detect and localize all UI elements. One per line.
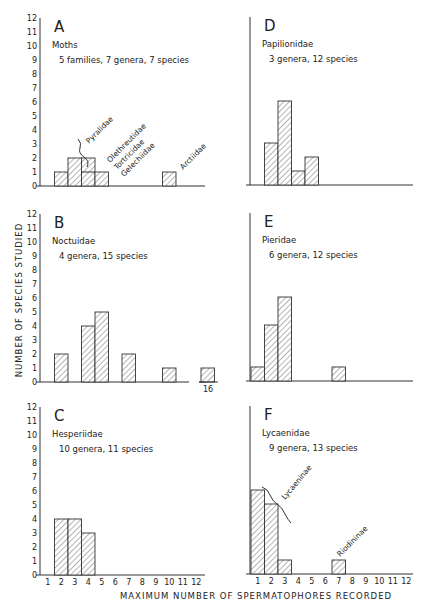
panel-subtitle: 9 genera, 13 species: [269, 443, 358, 453]
panel-family: Moths: [52, 40, 78, 50]
bar-x4: [82, 326, 96, 382]
bar-x5: [305, 157, 319, 185]
panel-b: 0123456789101112BNoctuidae4 genera, 15 s…: [27, 210, 218, 394]
bar-x16: [201, 368, 215, 382]
panel-subtitle: 6 genera, 12 species: [269, 250, 358, 260]
panel-letter: F: [264, 406, 273, 424]
y-tick-label: 6: [32, 98, 37, 107]
x-tick-label: 1: [255, 577, 260, 586]
y-tick-label: 1: [32, 168, 37, 177]
y-tick-label: 12: [27, 403, 37, 412]
y-tick-label: 0: [32, 571, 37, 580]
y-tick-label: 8: [32, 266, 37, 275]
x-tick-label: 10: [374, 577, 384, 586]
x-tick-label: 12: [191, 578, 201, 587]
bar-x7: [122, 354, 136, 382]
y-tick-label: 3: [32, 140, 37, 149]
x-tick-label: 8: [140, 578, 145, 587]
y-tick-label: 10: [27, 431, 37, 440]
bar-x3: [278, 297, 292, 381]
bar-x2: [55, 519, 69, 575]
label-pyralidae: Pyralidae: [84, 114, 115, 145]
bar-x2: [265, 325, 279, 381]
bar-x3: [68, 519, 82, 575]
bar-x10: [163, 172, 177, 186]
y-tick-label: 0: [32, 378, 37, 387]
panel-subtitle: 5 families, 7 genera, 7 species: [59, 55, 190, 65]
bar-x10: [163, 368, 177, 382]
panel-family: Papilionidae: [262, 39, 313, 49]
bar-x2: [265, 143, 279, 185]
y-tick-label: 10: [27, 238, 37, 247]
x-tick-label: 4: [86, 578, 91, 587]
y-tick-label: 7: [32, 84, 37, 93]
bar-x7: [332, 367, 346, 381]
panel-subtitle: 3 genera, 12 species: [269, 54, 358, 64]
label-lycaeninae: Lycaeninae: [280, 463, 314, 501]
y-tick-label: 9: [32, 56, 37, 65]
x-axis-title: MAXIMUM NUMBER OF SPERMATOPHORES RECORDE…: [120, 591, 392, 601]
break-label: 16: [203, 385, 213, 394]
x-tick-label: 11: [178, 578, 188, 587]
y-tick-label: 9: [32, 445, 37, 454]
y-axis-title: NUMBER OF SPECIES STUDIED: [14, 223, 24, 378]
bar-x2: [55, 172, 69, 186]
panel-letter: E: [264, 213, 273, 231]
bar-x7: [332, 560, 346, 574]
y-tick-label: 3: [32, 529, 37, 538]
y-tick-label: 7: [32, 280, 37, 289]
panel-family: Hesperiidae: [52, 429, 103, 439]
panel-letter: D: [264, 17, 276, 35]
y-tick-label: 2: [32, 543, 37, 552]
bar-x4: [292, 171, 306, 185]
bar-x1: [251, 367, 265, 381]
bar-x2: [55, 354, 69, 382]
bar-x5: [95, 312, 109, 382]
y-tick-label: 4: [32, 515, 37, 524]
x-tick-label: 3: [282, 577, 287, 586]
x-tick-label: 4: [296, 577, 301, 586]
y-tick-label: 11: [27, 28, 37, 37]
x-tick-label: 6: [113, 578, 118, 587]
x-tick-label: 5: [99, 578, 104, 587]
panel-c: 0123456789101112123456789101112CHesperii…: [27, 403, 205, 587]
bar-x1: [251, 490, 265, 574]
y-tick-label: 11: [27, 417, 37, 426]
panel-e: EPieridae6 genera, 12 species: [246, 213, 413, 381]
x-tick-label: 7: [336, 577, 341, 586]
x-tick-label: 9: [363, 577, 368, 586]
x-tick-label: 3: [72, 578, 77, 587]
bar-x3: [68, 158, 82, 186]
x-tick-label: 10: [164, 578, 174, 587]
x-tick-label: 5: [309, 577, 314, 586]
panel-d: DPapilionidae3 genera, 12 species: [246, 17, 413, 185]
y-tick-label: 10: [27, 42, 37, 51]
y-tick-label: 7: [32, 473, 37, 482]
panel-a: 0123456789101112AMoths5 families, 7 gene…: [27, 14, 208, 191]
y-tick-label: 1: [32, 557, 37, 566]
x-tick-label: 2: [59, 578, 64, 587]
bar-x3: [278, 560, 292, 574]
panel-subtitle: 4 genera, 15 species: [59, 251, 148, 261]
bar-x3: [278, 101, 292, 185]
y-tick-label: 9: [32, 252, 37, 261]
y-tick-label: 6: [32, 294, 37, 303]
bar-x4: [82, 533, 96, 575]
y-tick-label: 12: [27, 210, 37, 219]
y-tick-label: 12: [27, 14, 37, 23]
y-tick-label: 2: [32, 350, 37, 359]
y-tick-label: 1: [32, 364, 37, 373]
x-tick-label: 6: [323, 577, 328, 586]
x-tick-label: 8: [350, 577, 355, 586]
panel-family: Pieridae: [262, 235, 296, 245]
figure: NUMBER OF SPECIES STUDIED MAXIMUM NUMBER…: [0, 0, 434, 610]
x-tick-label: 2: [269, 577, 274, 586]
x-tick-label: 9: [153, 578, 158, 587]
panel-family: Noctuidae: [52, 236, 95, 246]
y-tick-label: 8: [32, 70, 37, 79]
bar-x5: [95, 172, 109, 186]
panel-family: Lycaenidae: [262, 428, 310, 438]
y-tick-label: 2: [32, 154, 37, 163]
x-tick-label: 1: [45, 578, 50, 587]
y-tick-label: 5: [32, 112, 37, 121]
